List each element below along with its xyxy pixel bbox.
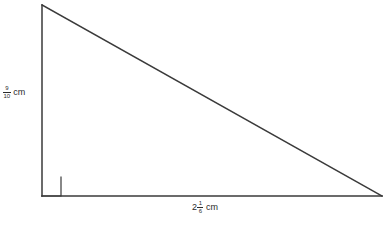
base-whole-number: 2 (192, 203, 197, 212)
base-fraction: 1 6 (197, 200, 203, 215)
height-fraction: 9 10 (3, 85, 11, 100)
base-fraction-numerator: 1 (198, 200, 202, 206)
base-mixed-number: 2 1 6 (192, 200, 204, 215)
right-angle-marker-icon (42, 177, 61, 196)
triangle-hypotenuse (42, 5, 382, 196)
height-measurement-label: 9 10 cm (3, 85, 25, 100)
height-fraction-denominator: 10 (3, 93, 11, 99)
right-triangle-drawing (0, 0, 388, 225)
height-fraction-numerator: 9 (5, 85, 9, 91)
height-unit-label: cm (13, 88, 25, 97)
base-fraction-denominator: 6 (198, 208, 202, 214)
base-unit-label: cm (206, 203, 218, 212)
figure-canvas: 9 10 cm 2 1 6 cm (0, 0, 388, 225)
base-measurement-label: 2 1 6 cm (0, 200, 388, 215)
